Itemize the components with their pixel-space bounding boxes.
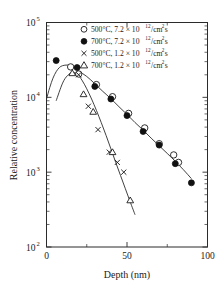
svg-text:5: 5	[37, 15, 40, 22]
data-point	[67, 64, 73, 70]
data-point	[108, 96, 114, 102]
relative-concentration-vs-depth-chart: 050100102103104105 Depth (nm) Relative c…	[0, 0, 224, 294]
data-point	[188, 180, 194, 186]
legend-item-3: 500°C, 1.2 × 1012/cm2s	[82, 47, 168, 57]
legend-label: 700°C, 1.2 × 10	[91, 61, 140, 70]
y-axis-title: Relative concentration	[8, 90, 19, 180]
x-axis-title: Depth (nm)	[104, 269, 150, 281]
x-tick-label: 100	[200, 251, 215, 261]
legend-label: 700°C, 7.2 × 10	[91, 37, 140, 46]
legend-exponent: 12	[145, 59, 151, 65]
data-point	[92, 83, 98, 89]
data-point	[140, 128, 146, 134]
data-point	[53, 58, 59, 64]
legend-exponent: 12	[145, 23, 151, 29]
svg-text:10: 10	[26, 18, 36, 28]
legend-marker-open-circle	[81, 26, 87, 32]
data-point	[170, 152, 176, 158]
x-tick-label: 0	[44, 251, 49, 261]
svg-text:10: 10	[26, 243, 36, 253]
legend-marker-filled-circle	[81, 38, 87, 44]
data-point	[172, 161, 178, 167]
legend-units-tail: s	[165, 37, 168, 46]
legend-units-tail: s	[165, 25, 168, 34]
legend-units-tail: s	[165, 61, 168, 70]
legend-units-tail: s	[165, 49, 168, 58]
x-tick-label: 50	[122, 251, 132, 261]
legend-label: 500°C, 1.2 × 10	[91, 49, 140, 58]
figure-container: 050100102103104105 Depth (nm) Relative c…	[0, 0, 224, 294]
svg-text:2: 2	[37, 240, 40, 247]
legend-label: 500°C, 7.2 × 10	[91, 25, 140, 34]
data-point	[76, 71, 82, 77]
data-point	[124, 113, 130, 119]
legend-exponent: 12	[145, 47, 151, 53]
legend-exponent: 12	[145, 35, 151, 41]
data-point	[156, 142, 162, 148]
svg-text:3: 3	[37, 165, 40, 172]
data-point	[74, 65, 80, 71]
legend-item-2: 700°C, 7.2 × 1012/cm2s	[81, 35, 168, 45]
svg-text:10: 10	[26, 168, 36, 178]
legend-item-1: 500°C, 7.2 × 1012/cm2s	[81, 23, 168, 33]
svg-text:10: 10	[26, 93, 36, 103]
legend-item-4: 700°C, 1.2 × 1012/cm2s	[80, 59, 167, 69]
